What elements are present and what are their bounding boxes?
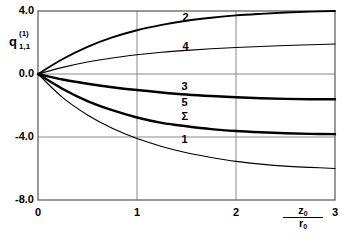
y-tick-label: 4.0	[0, 4, 34, 16]
curve-label-Sigma: Σ	[182, 110, 189, 122]
x-tick-label: 0	[26, 206, 50, 218]
x-axis-title-denominator: r0	[283, 218, 323, 230]
curve-label-1: 1	[182, 133, 188, 145]
x-tick-label: 2	[224, 206, 248, 218]
y-axis-title-subscript: 1,1	[19, 43, 30, 51]
x-tick-label: 1	[125, 206, 149, 218]
x-tick-label: 3	[323, 206, 346, 218]
y-tick-label: 0.0	[0, 67, 34, 79]
y-tick-label: -8.0	[0, 193, 34, 205]
y-axis-title-superscript: (1)	[19, 30, 29, 38]
y-tick-label: -4.0	[0, 130, 34, 142]
x-axis-title: z0 r0	[283, 205, 323, 229]
curve-label-4: 4	[183, 40, 189, 52]
y-axis-title-base: q	[9, 35, 17, 48]
y-axis-title: q (1) 1,1	[9, 26, 43, 56]
chart-container: q (1) 1,1 z0 r0 4.00.0-4.0-8.0 0123 2435…	[0, 0, 346, 247]
curve-label-2: 2	[183, 11, 189, 23]
curve-label-3: 3	[182, 80, 188, 92]
curve-label-5: 5	[182, 96, 188, 108]
